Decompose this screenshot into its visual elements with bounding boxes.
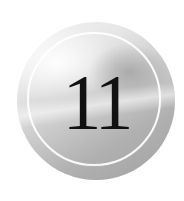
chapter-number-badge: 11	[17, 22, 175, 180]
chapter-number-badge-container: 11	[0, 0, 184, 201]
chapter-number: 11	[17, 22, 175, 180]
